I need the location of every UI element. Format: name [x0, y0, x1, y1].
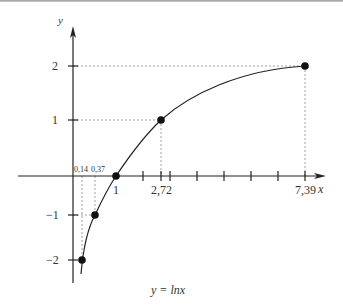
x-axis-label: x	[318, 183, 323, 195]
x-tick-2-72: 2,72	[151, 184, 172, 196]
ln-curve	[81, 66, 305, 274]
y-tick-1: 1	[52, 114, 58, 126]
axes	[18, 30, 322, 283]
point-1	[112, 172, 120, 180]
point-037	[91, 211, 99, 219]
y-axis-label: y	[58, 14, 63, 26]
y-tick-2: 2	[52, 60, 58, 72]
guide-lines	[73, 66, 305, 260]
data-points	[78, 62, 309, 264]
x-tick-1: 1	[113, 184, 119, 196]
x-tick-0-14: 0,14	[74, 166, 88, 174]
point-739	[301, 62, 309, 70]
x-tick-7-39: 7,39	[295, 184, 316, 196]
y-tick-minus-2: −2	[46, 254, 59, 266]
point-272	[157, 116, 165, 124]
y-tick-minus-1: −1	[46, 209, 59, 221]
x-tick-0-37: 0,37	[91, 166, 105, 174]
point-014	[78, 256, 86, 264]
chart-caption: y = lnx	[151, 284, 185, 296]
